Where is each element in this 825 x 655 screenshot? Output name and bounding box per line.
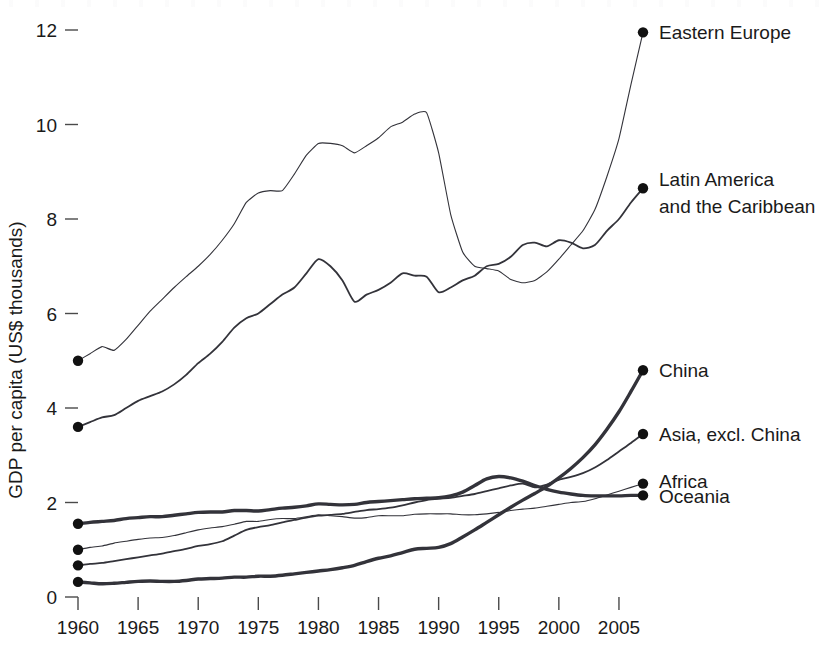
y-tick-label-6: 6 (46, 304, 57, 325)
line-chart: 0246810121960196519701975198019851990199… (0, 0, 825, 655)
x-tick-label-1980: 1980 (297, 617, 339, 638)
series-line-china (78, 370, 643, 584)
x-tick-label-1990: 1990 (417, 617, 459, 638)
x-tick-label-1965: 1965 (117, 617, 159, 638)
series-end-dot-china (638, 365, 648, 375)
series-end-dot-asia-excl-china (638, 429, 648, 439)
series-label-china: China (659, 360, 709, 381)
y-tick-label-10: 10 (36, 115, 57, 136)
y-tick-label-4: 4 (46, 398, 57, 419)
x-tick-label-2005: 2005 (598, 617, 640, 638)
series-end-dot-oceania (638, 490, 648, 500)
x-tick-label-1995: 1995 (478, 617, 520, 638)
series-start-dot-eastern-europe (73, 356, 83, 366)
series-label-latin-america-and-the-caribbean-line2: and the Caribbean (659, 196, 815, 217)
series-start-dot-latin-america-and-the-caribbean (73, 422, 83, 432)
y-tick-label-0: 0 (46, 587, 57, 608)
series-start-dot-oceania (73, 519, 83, 529)
series-start-dot-africa (73, 545, 83, 555)
y-tick-label-8: 8 (46, 209, 57, 230)
series-line-asia-excl-china (78, 434, 643, 565)
series-line-oceania (78, 476, 643, 523)
series-label-eastern-europe: Eastern Europe (659, 22, 791, 43)
series-label-oceania: Oceania (659, 486, 730, 507)
x-tick-label-2000: 2000 (538, 617, 580, 638)
series-line-eastern-europe (78, 32, 643, 360)
series-end-dot-africa (638, 478, 648, 488)
x-tick-label-1985: 1985 (357, 617, 399, 638)
x-tick-label-1970: 1970 (177, 617, 219, 638)
y-axis-title: GDP per capita (US$ thousands) (5, 221, 26, 498)
series-line-latin-america-and-the-caribbean (78, 188, 643, 427)
x-tick-label-1975: 1975 (237, 617, 279, 638)
y-tick-label-12: 12 (36, 20, 57, 41)
series-end-dot-latin-america-and-the-caribbean (638, 183, 648, 193)
series-label-asia-excl-china: Asia, excl. China (659, 424, 801, 445)
series-end-dot-eastern-europe (638, 27, 648, 37)
series-start-dot-asia-excl-china (73, 560, 83, 570)
series-start-dot-china (73, 577, 83, 587)
y-tick-label-2: 2 (46, 493, 57, 514)
chart-canvas: 0246810121960196519701975198019851990199… (0, 0, 825, 655)
x-tick-label-1960: 1960 (57, 617, 99, 638)
series-label-latin-america-and-the-caribbean-line1: Latin America (659, 169, 775, 190)
